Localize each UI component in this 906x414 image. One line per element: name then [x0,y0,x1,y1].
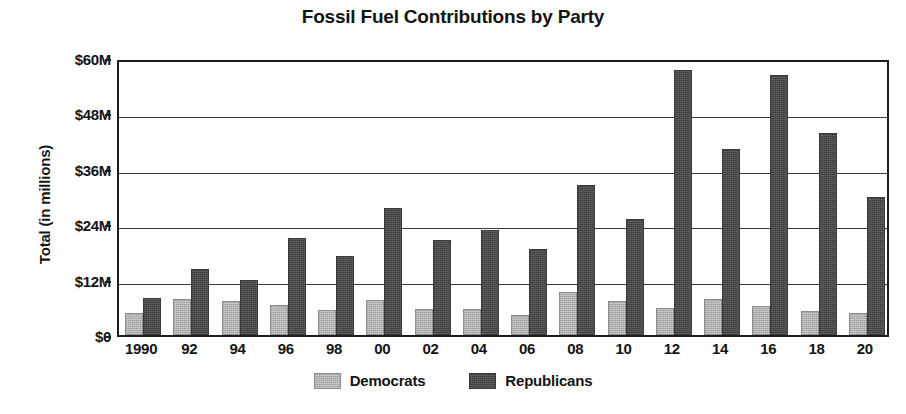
legend-entry[interactable]: Republicans [469,372,592,389]
chart-figure: Fossil Fuel Contributions by Party Total… [0,0,906,414]
legend-entry[interactable]: Democrats [314,372,426,389]
y-axis-tick-mark [105,225,111,227]
y-axis-tick-mark [105,170,111,172]
bar-democrats[interactable] [752,306,770,335]
bar-group [795,62,843,335]
bar-group [167,62,215,335]
bar-group [698,62,746,335]
bar-group [216,62,264,335]
bar-democrats[interactable] [366,300,384,335]
bar-republicans[interactable] [143,298,161,335]
bar-republicans[interactable] [288,238,306,335]
chart-title: Fossil Fuel Contributions by Party [0,6,906,28]
bar-group [650,62,698,335]
bar-democrats[interactable] [608,301,626,335]
bar-group [360,62,408,335]
bar-republicans[interactable] [384,208,402,335]
bar-republicans[interactable] [191,269,209,335]
bar-democrats[interactable] [704,299,722,335]
bar-republicans[interactable] [867,197,885,336]
bar-republicans[interactable] [674,70,692,335]
bar-republicans[interactable] [577,185,595,335]
y-axis-tick-mark [105,281,111,283]
y-axis-tick-mark [105,114,111,116]
democrats-swatch [314,373,341,389]
y-axis-tick-label: $12M [11,273,111,290]
y-axis-tick-label: $24M [11,217,111,234]
legend-label: Democrats [350,372,426,389]
bar-republicans[interactable] [819,133,837,335]
bar-series-container [119,62,887,335]
bar-democrats[interactable] [463,309,481,335]
y-axis-tick-label: $60M [11,51,111,68]
bar-republicans[interactable] [240,280,258,335]
bar-group [746,62,794,335]
bar-republicans[interactable] [481,230,499,335]
bar-republicans[interactable] [433,240,451,335]
bar-democrats[interactable] [222,301,240,335]
bar-democrats[interactable] [270,305,288,335]
bar-democrats[interactable] [415,309,433,335]
y-axis-tick-mark [105,59,111,61]
y-axis-tick-label: $48M [11,106,111,123]
bar-democrats[interactable] [125,313,143,335]
legend-label: Republicans [505,372,592,389]
bar-democrats[interactable] [849,313,867,335]
bar-democrats[interactable] [511,315,529,335]
bar-group [457,62,505,335]
y-axis-tick-label: $0 [11,328,111,345]
bar-republicans[interactable] [529,249,547,335]
bar-democrats[interactable] [656,308,674,335]
y-axis-tick-labels: $0$12M$24M$36M$48M$60M [7,60,111,337]
bar-group [843,62,891,335]
y-axis-tick-mark [105,336,111,338]
y-axis-tick-label: $36M [11,162,111,179]
bar-group [409,62,457,335]
bar-group [312,62,360,335]
bar-republicans[interactable] [626,219,644,335]
bar-group [602,62,650,335]
x-axis-tick-label: 20 [831,340,899,357]
bar-democrats[interactable] [318,310,336,335]
bar-group [119,62,167,335]
bar-group [505,62,553,335]
bar-republicans[interactable] [722,149,740,336]
bar-group [553,62,601,335]
bar-republicans[interactable] [336,256,354,335]
bar-democrats[interactable] [559,292,577,335]
bar-democrats[interactable] [801,311,819,335]
x-axis-tick-labels: 1990929496980002040608101214161820 [117,340,889,362]
bar-republicans[interactable] [770,75,788,335]
chart-legend: DemocratsRepublicans [0,372,906,389]
plot-area [117,60,889,337]
bar-group [264,62,312,335]
bar-democrats[interactable] [173,299,191,335]
republicans-swatch [469,373,496,389]
